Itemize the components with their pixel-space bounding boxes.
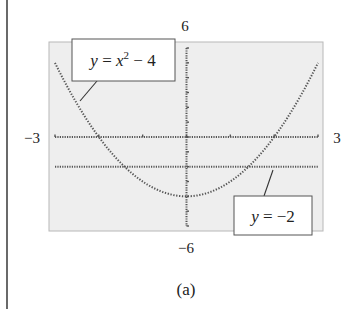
callout-parabola-label: y = x2 − 4 (88, 49, 156, 70)
callout-line-label: y = −2 (249, 207, 295, 226)
y-max-label: 6 (181, 18, 189, 34)
figure: 6 −6 −3 3 y = x2 − 4 y = −2 (a) (0, 0, 358, 321)
x-max-label: 3 (333, 130, 341, 146)
figure-caption: (a) (177, 280, 196, 299)
x-min-label: −3 (24, 130, 40, 146)
y-min-label: −6 (178, 240, 194, 256)
